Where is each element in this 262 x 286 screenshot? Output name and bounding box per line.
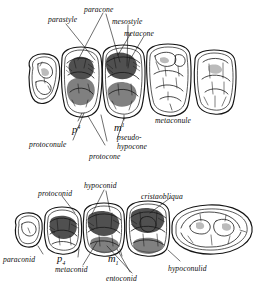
lower-tooth-4 [126,201,169,256]
lower-tooth-1 [15,213,42,247]
mesostyle-label: mesostyle [112,17,143,26]
metacone-label: metacone [124,29,154,38]
dental-morphology-figure: parastyle paracone mesostyle metacone me… [0,0,262,286]
lower-tooth-2-p4 [44,207,81,254]
protoconid-label: protoconid [37,189,72,198]
pseudo-hypocone-label-line2: hypocone [117,142,147,151]
cristaobliqua-label: cristaobliqua [141,192,183,201]
paracone-label: paracone [83,5,114,14]
parastyle-label: parastyle [47,15,78,24]
figure-plate: parastyle paracone mesostyle metacone me… [0,0,262,286]
upper-tooth-5 [194,50,236,114]
upper-tooth-4 [147,44,191,116]
paraconid-label: paraconid [2,255,35,264]
protoconule-label: protoconule [28,140,67,149]
entoconid-label: entoconid [106,274,137,283]
lower-tooth-3-m1 [83,203,124,256]
lower-tooth-5-m3 [172,205,252,254]
pseudo-hypocone-label-line1: pseudo- [116,133,142,142]
upper-tooth-2-p4 [61,47,102,117]
hypoconid-label: hypoconid [84,181,117,190]
hypoconulid-label: hypoconulid [168,264,207,273]
metaconid-label: metaconid [55,265,88,274]
protocone-label: protocone [88,152,121,161]
metaconule-label: metaconule [155,116,192,125]
upper-tooth-3-m1 [102,45,145,118]
